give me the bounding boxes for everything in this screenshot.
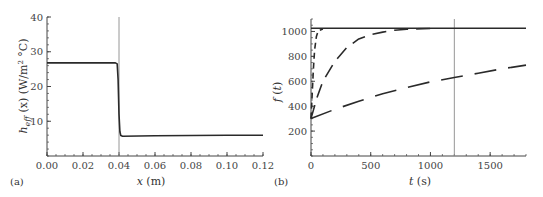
panel-b-series-long-dash-slow: [311, 65, 526, 119]
chart-panel-a: 0.000.020.040.060.080.100.1210203040 x (…: [10, 12, 274, 189]
panel-a-y-tick-label: 20: [30, 81, 43, 92]
panel-b-series-short-dash-fast: [311, 29, 323, 119]
panel-b-label: (b): [274, 176, 288, 187]
panel-a-x-tick-label: 0.08: [180, 160, 202, 171]
panel-b-y-axis-title: f (t): [271, 82, 284, 104]
panel-a-x-tick-label: 0.12: [252, 160, 274, 171]
panel-b-x-tick-label: 1500: [477, 160, 502, 171]
panel-a-x-tick-label: 0.02: [72, 160, 94, 171]
panel-a-y-tick-label: 10: [30, 116, 43, 127]
panel-b-x-axis-title: t (s): [409, 175, 431, 188]
panel-a-x-tick-label: 0.00: [36, 160, 58, 171]
figure: 0.000.020.040.060.080.100.1210203040 x (…: [0, 0, 543, 197]
panel-b-y-tick-label: 400: [288, 101, 307, 112]
panel-a-plot-area: [47, 17, 263, 156]
panel-b-y-tick-label: 800: [288, 51, 307, 62]
panel-b-y-tick-label: 1000: [282, 26, 307, 37]
panel-b-x-tick-label: 0: [308, 160, 314, 171]
panel-b-x-tick-label: 500: [361, 160, 380, 171]
panel-a-y-tick-label: 30: [30, 46, 43, 57]
panel-a-axes: 0.000.020.040.060.080.100.1210203040: [30, 12, 274, 172]
panel-a-x-tick-label: 0.04: [108, 160, 130, 171]
panel-a-x-axis-title: x (m): [137, 175, 166, 188]
panel-b-series-medium-dash: [311, 29, 430, 119]
panel-b-y-tick-label: 600: [288, 76, 307, 87]
panel-a-y-tick-label: 40: [30, 12, 43, 23]
panel-b-plot-area: [311, 19, 526, 156]
panel-b-y-tick-label: 200: [288, 126, 307, 137]
panel-a-x-tick-label: 0.06: [144, 160, 166, 171]
panel-a-x-tick-label: 0.10: [216, 160, 238, 171]
panel-a-series-h_eff: [47, 63, 263, 136]
panel-b-x-tick-label: 1000: [418, 160, 443, 171]
panel-a-y-axis-title: heff (x) (W/m2 °C): [17, 38, 32, 133]
chart-panel-b: 0500100015002004006008001000 t (s) f (t)…: [271, 19, 526, 188]
panel-a-label: (a): [10, 176, 24, 187]
